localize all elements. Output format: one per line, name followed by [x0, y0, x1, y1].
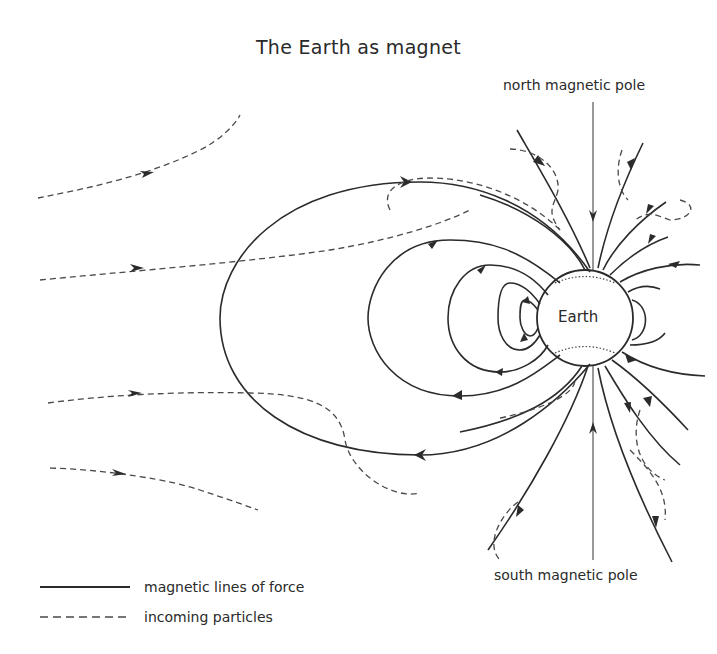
field-lines-south [460, 333, 705, 562]
legend-label: incoming particles [144, 609, 273, 625]
earth-label: Earth [558, 308, 598, 326]
south-magnetic-pole-label: south magnetic pole [494, 567, 638, 583]
legend-label: magnetic lines of force [144, 579, 304, 595]
dashed-line-swatch-icon [40, 614, 130, 620]
solid-line-swatch-icon [40, 584, 130, 590]
legend-item-incoming-particles: incoming particles [40, 602, 304, 632]
legend-item-magnetic-lines: magnetic lines of force [40, 572, 304, 602]
legend: magnetic lines of force incoming particl… [40, 572, 304, 632]
magnetic-field-diagram [0, 0, 717, 654]
field-loop-right [632, 300, 646, 340]
north-magnetic-pole-label: north magnetic pole [503, 77, 645, 93]
